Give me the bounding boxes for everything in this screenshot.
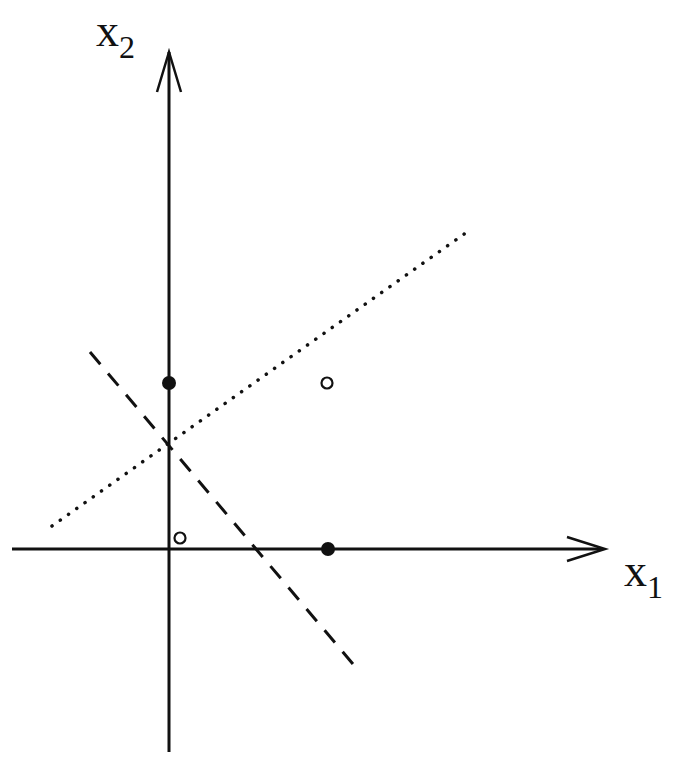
filled-point-0-1 [162, 376, 176, 390]
feature-space-diagram [0, 0, 678, 766]
filled-point-1-0 [321, 542, 335, 556]
open-point-0-0 [175, 533, 186, 544]
x-axis-label: x1 [624, 548, 663, 603]
open-point-1-1 [322, 378, 333, 389]
dashed-decision-line [90, 352, 358, 670]
y-axis-label: x2 [96, 8, 135, 63]
